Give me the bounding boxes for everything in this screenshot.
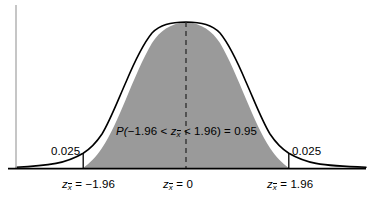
probability-first-relation: < — [157, 125, 170, 137]
axis-center-value: 0 — [186, 178, 193, 190]
probability-second-relation: < — [181, 125, 194, 137]
probability-upper-bound: 1.96 — [194, 125, 217, 137]
axis-right-equals: = — [277, 178, 290, 190]
normal-distribution-figure: 0.025 0.025 P(−1.96 < zx < 1.96) = 0.95 … — [0, 0, 372, 207]
axis-tick-label-upper: zx = 1.96 — [267, 179, 313, 192]
probability-variable-subscript: x — [177, 131, 181, 139]
axis-center-equals: = — [173, 178, 186, 190]
axis-center-subscript: x — [169, 184, 173, 192]
probability-lower-bound: −1.96 — [128, 125, 158, 137]
axis-tick-label-center: zx = 0 — [163, 179, 193, 192]
axis-right-value: 1.96 — [290, 178, 313, 190]
axis-left-subscript: x — [68, 184, 72, 192]
probability-statement: P(−1.96 < zx < 1.96) = 0.95 — [116, 126, 257, 139]
axis-right-subscript: x — [273, 184, 277, 192]
probability-value: 0.95 — [234, 125, 257, 137]
axis-tick-label-lower: zx = −1.96 — [62, 179, 115, 192]
left-tail-area-label: 0.025 — [51, 146, 80, 158]
axis-left-equals: = — [72, 178, 85, 190]
distribution-plot — [0, 0, 372, 207]
right-tail-area-label: 0.025 — [292, 146, 321, 158]
probability-close: ) = — [217, 125, 234, 137]
probability-prefix: P( — [116, 125, 128, 137]
axis-left-value: −1.96 — [85, 178, 115, 190]
